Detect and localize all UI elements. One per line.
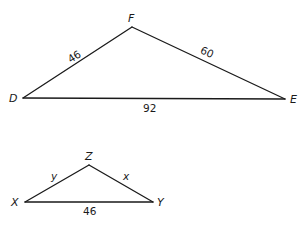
vertex-label-f: F (128, 12, 135, 25)
side-label-zy: x (122, 170, 130, 182)
vertex-label-y: Y (157, 196, 165, 209)
side-label-fe: 60 (199, 44, 216, 61)
similar-triangles-diagram: D F E 46 60 92 X Z Y y x 46 (0, 0, 307, 232)
side-df (23, 27, 132, 98)
side-label-xz: y (50, 170, 58, 182)
side-zy (89, 165, 153, 202)
side-de (23, 98, 285, 99)
vertex-label-d: D (9, 92, 17, 105)
side-label-xy: 46 (83, 205, 97, 217)
triangle-xyz: X Z Y y x 46 (10, 150, 165, 217)
triangle-def: D F E 46 60 92 (9, 12, 297, 114)
side-fe (132, 27, 285, 99)
side-label-df: 46 (65, 47, 83, 65)
vertex-label-z: Z (84, 150, 93, 163)
vertex-label-x: X (10, 196, 19, 209)
side-label-de: 92 (143, 102, 156, 114)
vertex-label-e: E (290, 93, 297, 106)
